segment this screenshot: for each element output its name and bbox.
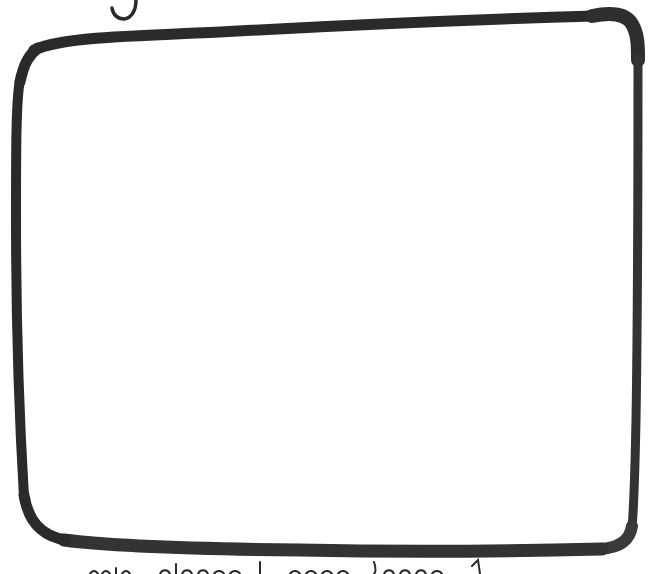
top-partial-glyph: [112, 0, 136, 19]
rounded-rectangle-frame: [16, 14, 638, 551]
hand-drawn-sketch: [0, 0, 654, 574]
handwritten-caption-clipped: [60, 558, 520, 574]
